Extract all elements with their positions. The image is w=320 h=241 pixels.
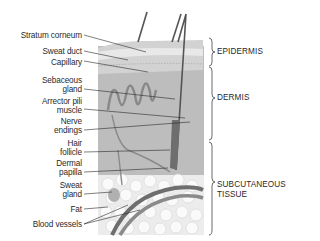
label-capillary: Capillary — [51, 58, 82, 67]
label-dermal-papilla: Dermalpapilla — [56, 159, 82, 177]
hair-shaft — [138, 12, 147, 42]
label-blood-vessels: Blood vessels — [33, 220, 82, 229]
label-dermis: DERMIS — [217, 93, 249, 103]
label-hair-follicle: Hairfollicle — [60, 139, 82, 157]
label-epidermis: EPIDERMIS — [217, 47, 263, 57]
label-sweat-duct: Sweat duct — [42, 47, 82, 56]
label-stratum-corneum: Stratum corneum — [21, 31, 82, 40]
sweat-gland-body — [108, 188, 120, 202]
label-subcutaneous-tissue: SUBCUTANEOUSTISSUE — [217, 180, 286, 199]
label-sebaceous-gland: Sebaceousgland — [42, 76, 82, 94]
layer-braces — [209, 38, 215, 235]
label-sweat-gland: Sweatgland — [60, 181, 82, 199]
label-arrector-pili-muscle: Arrector pilimuscle — [42, 97, 82, 115]
label-fat: Fat — [70, 205, 82, 214]
label-nerve-endings: Nerveendings — [54, 117, 82, 135]
